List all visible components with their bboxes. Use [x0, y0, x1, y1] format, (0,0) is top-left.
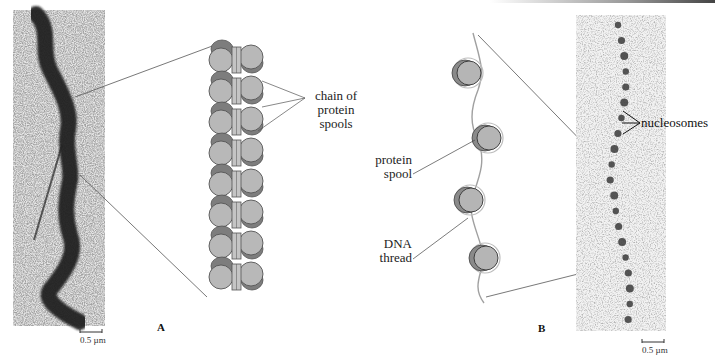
nucleosome-bead — [626, 285, 634, 293]
label-line: DNA — [370, 237, 412, 251]
nucleosome-spool — [454, 185, 485, 215]
nucleosome-bead — [618, 115, 624, 121]
nucleosome-bead — [622, 254, 628, 260]
nucleosome-bead — [610, 145, 618, 153]
spool-pair — [209, 257, 263, 290]
nucleosome-bead — [622, 83, 629, 90]
spool-pair — [209, 102, 263, 135]
spool-pair — [209, 133, 263, 166]
scale-bar-a — [80, 329, 102, 333]
nucleosome-spool — [469, 243, 500, 273]
panel-letter-b: B — [538, 322, 545, 334]
spool-pair — [209, 40, 263, 73]
spool-pair — [209, 71, 263, 104]
nucleosome-bead — [613, 208, 619, 214]
leader-protein-spool — [413, 140, 475, 174]
nucleosome-bead — [615, 223, 622, 230]
nucleosome-bead — [625, 269, 632, 276]
leader-dna-thread — [413, 218, 468, 259]
scale-bar-b — [642, 339, 664, 343]
panel-letter-a: A — [157, 321, 165, 333]
nucleosome-bead — [608, 161, 614, 167]
nucleosome-spool — [472, 123, 503, 153]
nucleosome-bead — [620, 99, 628, 107]
nucleosome-bead — [610, 192, 618, 200]
scale-label-a: 0.5 µm — [80, 335, 106, 345]
scale-label-b: 0.5 µm — [642, 345, 668, 355]
label-line: spool — [370, 167, 412, 181]
nucleosome-bead — [623, 68, 629, 74]
label-line: chain of — [306, 89, 366, 103]
label-dna-thread: DNA thread — [370, 237, 412, 265]
figure-canvas — [0, 0, 719, 360]
nucleosome-bead — [618, 238, 626, 246]
nucleosome-bead — [615, 22, 621, 28]
nucleosome-bead — [614, 130, 621, 137]
label-line: spools — [306, 117, 366, 131]
label-nucleosomes: nucleosomes — [641, 116, 708, 130]
label-line: protein — [306, 103, 366, 117]
spool-pair — [209, 226, 263, 259]
nucleosome-bead — [607, 176, 614, 183]
nucleosome-bead — [618, 37, 625, 44]
spool-pair — [209, 195, 263, 228]
micrograph-a — [13, 10, 105, 326]
nucleosome-spool — [452, 58, 483, 88]
label-line: thread — [370, 251, 412, 265]
spool-pair — [209, 164, 263, 197]
micrograph-b — [576, 15, 666, 331]
label-line: protein — [370, 153, 412, 167]
nucleosome-bead — [625, 316, 632, 323]
nucleosome-bead — [620, 52, 628, 60]
label-chain-of-protein-spools: chain of protein spools — [306, 89, 366, 131]
nucleosome-bead — [627, 301, 633, 307]
spool-chain-diagram — [209, 40, 263, 290]
label-protein-spool: protein spool — [370, 153, 412, 181]
callout-lines-chain — [258, 81, 305, 131]
